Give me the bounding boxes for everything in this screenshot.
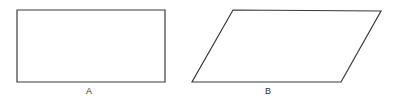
label-b: B xyxy=(265,86,271,96)
parallelogram-shape-b xyxy=(192,10,381,82)
rectangle-shape-a xyxy=(17,10,165,82)
label-a: A xyxy=(86,86,92,96)
shapes-diagram: A B xyxy=(0,0,402,100)
